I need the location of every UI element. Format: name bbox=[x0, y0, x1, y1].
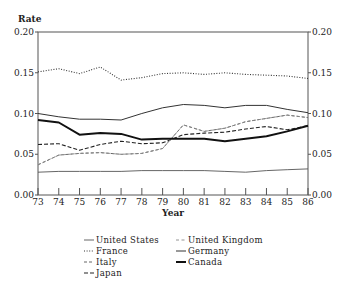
y-tick-label-left: 0.15 bbox=[14, 68, 34, 78]
series-line-canada bbox=[38, 120, 308, 141]
x-tick-label: 77 bbox=[115, 197, 127, 207]
y-tick-label-right: 0.10 bbox=[312, 109, 332, 119]
x-tick-label: 75 bbox=[74, 197, 86, 207]
legend-label: Japan bbox=[96, 268, 122, 278]
series-lines bbox=[38, 67, 308, 172]
y-axis-title: Rate bbox=[18, 14, 42, 24]
x-tick-label: 78 bbox=[136, 197, 148, 207]
legend-item-united-states: United States bbox=[84, 234, 159, 245]
y-tick-label-right: 0.15 bbox=[312, 68, 332, 78]
series-line-germany bbox=[38, 105, 308, 121]
y-tick-label-right: 0.20 bbox=[312, 27, 332, 37]
series-line-united-states bbox=[38, 169, 308, 172]
legend-item-italy: Italy bbox=[84, 256, 117, 267]
legend-label: Canada bbox=[188, 257, 222, 267]
legend-swatch-icon bbox=[176, 259, 186, 265]
line-chart: 0.000.000.050.050.100.100.150.150.200.20… bbox=[0, 0, 344, 235]
legend-swatch-icon bbox=[84, 259, 94, 265]
x-tick-label: 73 bbox=[32, 197, 44, 207]
legend-item-united-kingdom: United Kingdom bbox=[176, 234, 263, 245]
legend-label: France bbox=[96, 246, 128, 256]
x-tick-label: 76 bbox=[95, 197, 107, 207]
legend-item-germany: Germany bbox=[176, 245, 229, 256]
legend-item-canada: Canada bbox=[176, 256, 222, 267]
x-tick-label: 74 bbox=[53, 197, 65, 207]
legend-swatch-icon bbox=[84, 237, 94, 243]
y-tick-label-right: 0.00 bbox=[312, 190, 332, 200]
x-tick-label: 83 bbox=[240, 197, 252, 207]
x-tick-label: 84 bbox=[261, 197, 273, 207]
y-tick-label-left: 0.00 bbox=[14, 190, 34, 200]
legend-swatch-icon bbox=[176, 248, 186, 254]
x-tick-label: 85 bbox=[282, 197, 294, 207]
legend-label: United Kingdom bbox=[188, 235, 263, 245]
legend-label: Germany bbox=[188, 246, 229, 256]
y-tick-label-left: 0.20 bbox=[14, 27, 34, 37]
y-tick-label-right: 0.05 bbox=[312, 149, 332, 159]
x-tick-label: 79 bbox=[157, 197, 169, 207]
series-line-france bbox=[38, 67, 308, 80]
series-line-italy bbox=[38, 115, 308, 165]
legend-swatch-icon bbox=[84, 270, 94, 276]
series-line-united-kingdom bbox=[38, 115, 308, 165]
x-tick-label: 82 bbox=[219, 197, 230, 207]
legend-label: Italy bbox=[96, 257, 117, 267]
legend-label: United States bbox=[96, 235, 159, 245]
x-tick-label: 80 bbox=[178, 197, 190, 207]
legend-item-france: France bbox=[84, 245, 128, 256]
y-tick-label-left: 0.05 bbox=[14, 149, 34, 159]
legend-item-japan: Japan bbox=[84, 267, 122, 278]
y-tick-label-left: 0.10 bbox=[14, 109, 34, 119]
x-axis-title: Year bbox=[161, 208, 184, 218]
legend-swatch-icon bbox=[84, 248, 94, 254]
legend-swatch-icon bbox=[176, 237, 186, 243]
x-tick-label: 81 bbox=[198, 197, 209, 207]
x-tick-label: 86 bbox=[302, 197, 314, 207]
